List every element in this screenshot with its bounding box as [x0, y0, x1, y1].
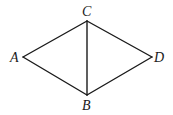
vertex-label-a: A — [9, 50, 19, 65]
edge-c-d — [87, 21, 152, 57]
edge-a-c — [23, 21, 87, 57]
vertex-label-d: D — [153, 50, 164, 65]
vertex-label-c: C — [82, 4, 92, 19]
edge-b-a — [23, 57, 87, 95]
edge-d-b — [87, 57, 152, 95]
quadrilateral-diagram: A C B D — [0, 0, 173, 115]
vertex-label-b: B — [82, 98, 91, 113]
